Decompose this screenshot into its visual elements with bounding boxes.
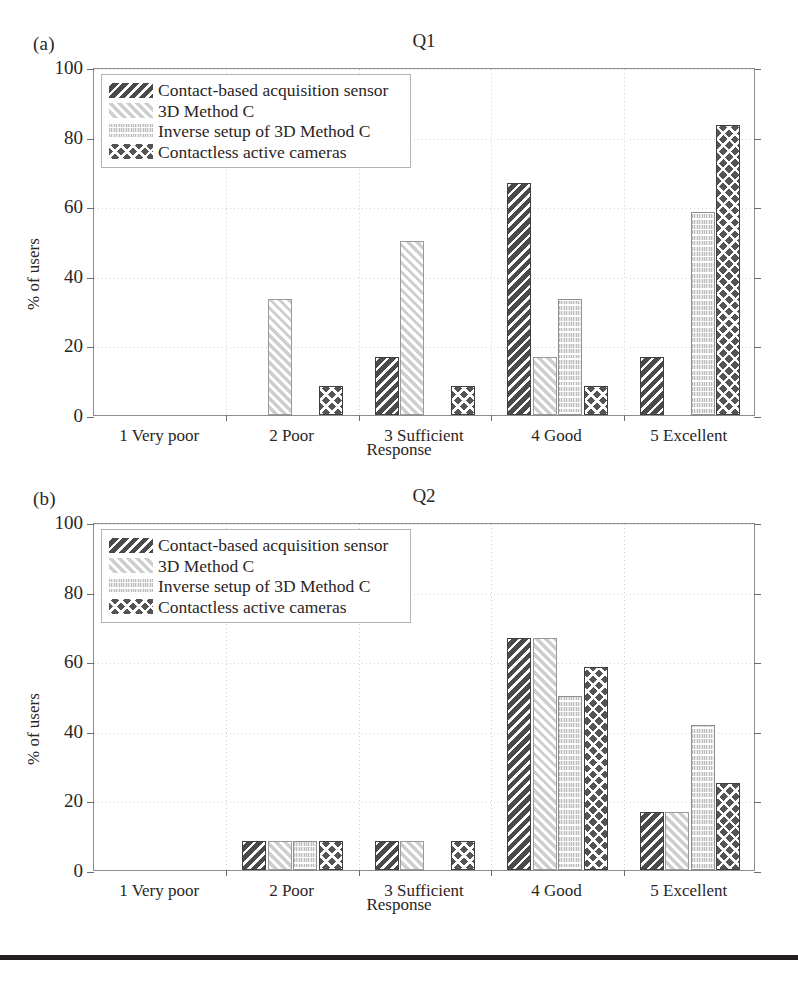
- legend-row: Inverse setup of 3D Method C: [109, 121, 402, 142]
- y-tick-label: 0: [74, 860, 84, 882]
- bar: [507, 183, 531, 415]
- bar: [451, 386, 475, 415]
- bar: [691, 725, 715, 870]
- panel-label-a: (a): [33, 33, 55, 55]
- bar: [533, 638, 557, 870]
- plot-title-q1: Q1: [93, 30, 755, 52]
- y-tick-label: 100: [55, 57, 84, 79]
- legend-row: Contact-based acquisition sensor: [109, 535, 402, 556]
- bar: [716, 125, 740, 415]
- y-tick-mark-right: [754, 69, 761, 70]
- y-tick-mark-right: [754, 139, 761, 140]
- y-tick-mark-right: [754, 208, 761, 209]
- y-tick-label: 100: [55, 512, 84, 534]
- y-tick-mark: [87, 417, 94, 418]
- bar: [400, 841, 424, 870]
- y-tick-mark-right: [754, 347, 761, 348]
- plot-title-q2: Q2: [93, 485, 755, 507]
- legend-row: Inverse setup of 3D Method C: [109, 576, 402, 597]
- x-axis-label-b: Response: [0, 895, 798, 915]
- y-tick-mark: [87, 872, 94, 873]
- y-tick-label: 0: [74, 405, 84, 427]
- y-tick-label: 20: [64, 790, 83, 812]
- x-tick-mark: [359, 415, 360, 421]
- bar: [640, 812, 664, 870]
- y-tick-label: 40: [64, 721, 83, 743]
- bar: [507, 638, 531, 870]
- bar: [665, 812, 689, 870]
- bar: [716, 783, 740, 870]
- legend-swatch-icon: [109, 558, 153, 573]
- legend-swatch-icon: [109, 144, 153, 159]
- x-tick-mark: [491, 415, 492, 421]
- y-tick-mark: [87, 733, 94, 734]
- y-tick-mark-right: [754, 733, 761, 734]
- legend-row: Contact-based acquisition sensor: [109, 80, 402, 101]
- y-axis-label-a: % of users: [24, 238, 44, 310]
- x-tick-mark: [226, 870, 227, 876]
- legend-label: Contactless active cameras: [158, 143, 347, 161]
- y-tick-mark: [87, 69, 94, 70]
- legend-row: Contactless active cameras: [109, 142, 402, 163]
- legend-label: Contactless active cameras: [158, 598, 347, 616]
- legend-row: 3D Method C: [109, 101, 402, 122]
- bar: [558, 299, 582, 415]
- y-tick-mark: [87, 278, 94, 279]
- y-axis-label-b: % of users: [24, 693, 44, 765]
- bar: [584, 667, 608, 870]
- legend-label: 3D Method C: [158, 557, 254, 575]
- y-tick-label: 60: [64, 651, 83, 673]
- legend-swatch-icon: [109, 83, 153, 98]
- legend-label: Inverse setup of 3D Method C: [158, 577, 370, 595]
- y-tick-mark: [87, 594, 94, 595]
- legend-row: Contactless active cameras: [109, 597, 402, 618]
- x-tick-mark: [491, 870, 492, 876]
- gridline-y: [94, 208, 754, 209]
- subplot-q2: (b) Q2 % of users 020406080100 1 Very po…: [0, 455, 798, 925]
- y-tick-label: 20: [64, 335, 83, 357]
- y-tick-mark-right: [754, 417, 761, 418]
- bar: [319, 841, 343, 870]
- bar: [268, 841, 292, 870]
- y-tick-label: 80: [64, 582, 83, 604]
- y-tick-label: 80: [64, 127, 83, 149]
- x-tick-mark: [624, 870, 625, 876]
- y-tick-mark-right: [754, 594, 761, 595]
- y-tick-mark: [87, 802, 94, 803]
- bar: [400, 241, 424, 415]
- y-tick-mark: [87, 208, 94, 209]
- footer-rule: [0, 955, 798, 960]
- legend-row: 3D Method C: [109, 556, 402, 577]
- legend-swatch-icon: [109, 579, 153, 594]
- gridline-y: [94, 524, 754, 525]
- legend-q2: Contact-based acquisition sensor3D Metho…: [101, 529, 411, 623]
- bar: [268, 299, 292, 415]
- gridline-y: [94, 69, 754, 70]
- bar: [293, 841, 317, 870]
- legend-label: 3D Method C: [158, 102, 254, 120]
- y-tick-mark-right: [754, 802, 761, 803]
- x-tick-mark: [226, 415, 227, 421]
- x-tick-mark: [624, 415, 625, 421]
- gridline-y: [94, 802, 754, 803]
- gridline-x: [624, 69, 625, 415]
- legend-q1: Contact-based acquisition sensor3D Metho…: [101, 74, 411, 168]
- legend-label: Inverse setup of 3D Method C: [158, 122, 370, 140]
- legend-swatch-icon: [109, 599, 153, 614]
- gridline-y: [94, 733, 754, 734]
- bar: [558, 696, 582, 870]
- legend-label: Contact-based acquisition sensor: [158, 536, 388, 554]
- y-tick-mark-right: [754, 524, 761, 525]
- bar: [584, 386, 608, 415]
- y-tick-mark: [87, 347, 94, 348]
- legend-label: Contact-based acquisition sensor: [158, 81, 388, 99]
- y-tick-mark-right: [754, 663, 761, 664]
- y-tick-label: 40: [64, 266, 83, 288]
- y-tick-mark: [87, 663, 94, 664]
- gridline-y: [94, 663, 754, 664]
- bar: [375, 841, 399, 870]
- bar: [242, 841, 266, 870]
- gridline-x: [624, 524, 625, 870]
- subplot-q1: (a) Q1 % of users 020406080100 1 Very po…: [0, 0, 798, 470]
- bar: [451, 841, 475, 870]
